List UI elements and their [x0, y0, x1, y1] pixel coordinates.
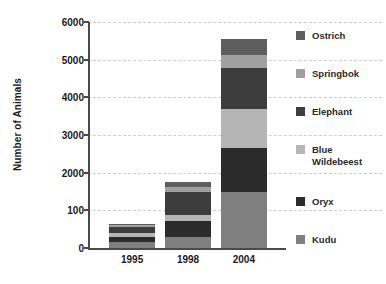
bar-segment: [165, 237, 211, 248]
legend-swatch-icon: [296, 145, 305, 154]
bar-segment: [221, 192, 267, 248]
y-axis-tick-label: 6000: [38, 17, 84, 28]
bar-segment: [165, 221, 211, 237]
bar-segment: [221, 148, 267, 191]
legend-swatch-icon: [296, 235, 305, 244]
y-axis-tick-labels: 010020003000400050006000: [32, 0, 84, 284]
bar-segment: [221, 68, 267, 109]
plot-area: [90, 22, 286, 248]
y-axis-tick-label: 0: [38, 243, 84, 254]
stacked-bar-chart: Number of Animals 0100200030004000500060…: [0, 0, 386, 284]
legend-item[interactable]: Ostrich: [296, 30, 386, 42]
legend-item[interactable]: Springbok: [296, 68, 386, 80]
y-axis-tick-label: 100: [38, 205, 84, 216]
bar-segment: [109, 242, 155, 248]
legend-item-label: Kudu: [312, 234, 336, 246]
x-axis-line: [88, 248, 286, 250]
legend-item-label: Springbok: [312, 68, 359, 80]
legend-swatch-icon: [296, 197, 305, 206]
legend-item-label: Ostrich: [312, 30, 345, 42]
legend-item[interactable]: Oryx: [296, 196, 386, 208]
legend-swatch-icon: [296, 69, 305, 78]
legend-item[interactable]: Blue Wildebeest: [296, 144, 386, 167]
y-axis-title-text: Number of Animals: [12, 77, 23, 170]
x-axis-tick-label: 2004: [233, 254, 255, 265]
y-axis-tick-label: 3000: [38, 130, 84, 141]
legend-swatch-icon: [296, 107, 305, 116]
legend-item-label: Blue Wildebeest: [312, 144, 362, 167]
x-axis-tick-label: 1998: [177, 254, 199, 265]
bar-stack: [109, 224, 155, 248]
bar-stack: [165, 182, 211, 248]
bar-segment: [165, 192, 211, 215]
bar-segment: [221, 55, 267, 68]
legend-item[interactable]: Kudu: [296, 234, 386, 246]
x-axis-tick-label: 1995: [121, 254, 143, 265]
y-axis-tick-label: 2000: [38, 167, 84, 178]
bar-stack: [221, 39, 267, 248]
y-axis-title: Number of Animals: [2, 0, 32, 248]
bar-segment: [221, 109, 267, 149]
legend-item-label: Elephant: [312, 106, 352, 118]
y-axis-tick-label: 4000: [38, 92, 84, 103]
legend-item[interactable]: Elephant: [296, 106, 386, 118]
bar-segment: [221, 39, 267, 55]
y-axis-tick-label: 5000: [38, 54, 84, 65]
legend-item-label: Oryx: [312, 196, 334, 208]
legend-swatch-icon: [296, 31, 305, 40]
